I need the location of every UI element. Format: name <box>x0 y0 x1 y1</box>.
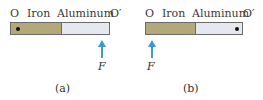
label-aluminum: Aluminum <box>57 8 114 20</box>
label-iron: Iron <box>162 8 185 20</box>
label-aluminum: Aluminum <box>192 8 249 20</box>
composite-rod <box>10 22 110 35</box>
panel-a: O Iron Aluminum O′ F (a) <box>0 0 131 100</box>
aluminum-segment <box>62 23 109 34</box>
caption: (a) <box>55 82 70 95</box>
pivot-dot <box>16 27 20 31</box>
iron-segment <box>146 23 196 34</box>
force-label: F <box>147 60 155 73</box>
label-o: O <box>145 8 154 20</box>
label-o: O <box>10 8 19 20</box>
force-label: F <box>98 60 106 73</box>
composite-rod <box>145 22 243 35</box>
force-arrow-icon <box>97 40 107 58</box>
pivot-dot <box>235 27 239 31</box>
label-iron: Iron <box>27 8 50 20</box>
caption: (b) <box>183 82 199 95</box>
force-arrow-icon <box>147 40 157 58</box>
panel-b: O Iron Aluminum O′ F (b) <box>131 0 262 100</box>
label-o-prime: O′ <box>243 8 255 20</box>
label-o-prime: O′ <box>110 8 122 20</box>
